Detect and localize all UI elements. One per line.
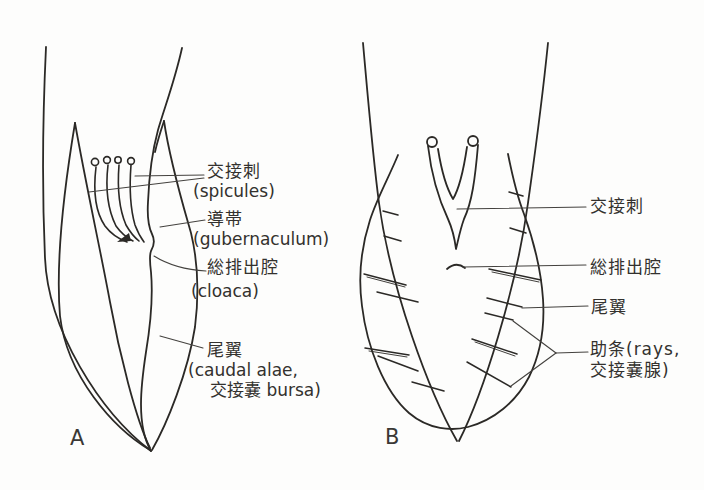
leader-a-cloaca: [154, 256, 206, 271]
panel-b-letter: B: [385, 427, 399, 448]
anatomy-line-art: [0, 0, 704, 490]
ray: [485, 313, 513, 320]
leader-a-spicules-1: [135, 175, 204, 176]
a-body-ventral-outline-with-cloaca: [141, 48, 182, 451]
spicule-shaft: [130, 165, 144, 242]
b-spicule-knob: [468, 136, 478, 146]
b-spicule-pair-inner: [438, 147, 467, 199]
ray: [509, 192, 523, 196]
panel-a-drawing: [43, 47, 197, 451]
label-a-spicules-jp: 交接刺: [207, 163, 261, 181]
a-spicules-group: [91, 157, 144, 242]
leader-b-rays-upper: [513, 321, 556, 353]
ray: [383, 211, 398, 215]
b-bursal-rays-right: [467, 192, 541, 387]
leader-b-cloaca: [463, 265, 586, 267]
label-b-cloaca-jp: 総排出腔: [590, 259, 662, 277]
spicule-shaft: [95, 167, 127, 242]
spicule-knob: [91, 158, 98, 165]
panel-b-drawing: [360, 43, 548, 441]
ray: [487, 298, 522, 307]
a-lateral-field-left-edge: [59, 123, 150, 450]
label-a-caudal-alae-jp: 尾翼: [207, 342, 243, 360]
b-body-right-outline: [459, 43, 548, 441]
label-a-cloaca-jp: 総排出腔: [207, 259, 279, 277]
spicule-knob: [115, 157, 121, 163]
a-lateral-field-right-edge: [75, 123, 150, 448]
figure-canvas: 交接刺 (spicules) 導帯 (gubernaculum) 総排出腔 (c…: [0, 0, 704, 490]
leader-b-caudal-alae: [522, 306, 588, 308]
leader-b-rays-stem: [556, 352, 588, 353]
ray: [384, 236, 401, 241]
label-a-caudal-alae-en-line2: 交接嚢 bursa): [210, 382, 321, 400]
label-b-rays-line2: 交接嚢腺): [590, 362, 670, 380]
leader-a-caudal-alae: [160, 336, 203, 348]
label-b-spicules-jp: 交接刺: [590, 198, 644, 216]
spicule-knob: [104, 157, 111, 164]
ray-shadow: [367, 277, 405, 287]
leader-a-gubernaculum: [160, 220, 205, 227]
b-spicule-knob: [427, 137, 437, 147]
label-b-rays-line1: 助条(rays,: [590, 341, 680, 359]
b-spicule-pair-outer: [428, 145, 478, 249]
panel-a-letter: A: [70, 428, 84, 449]
ray: [378, 356, 418, 371]
label-a-gubernaculum-en: (gubernaculum): [193, 231, 329, 249]
spicule-knob: [128, 158, 135, 165]
ray: [412, 382, 444, 391]
ray: [364, 274, 406, 285]
leader-b-rays-lower: [511, 353, 556, 386]
b-cloaca-arc: [447, 265, 465, 269]
ray: [472, 339, 517, 354]
ray: [377, 292, 418, 302]
label-a-caudal-alae-en-line1: (caudal alae,: [188, 362, 298, 380]
label-b-caudal-alae-jp: 尾翼: [591, 299, 627, 317]
label-a-cloaca-en: (cloaca): [191, 283, 259, 301]
label-a-spicules-en: (spicules): [193, 183, 275, 201]
label-a-gubernaculum-jp: 導帯: [207, 211, 243, 229]
b-body-left-outline: [363, 43, 457, 441]
